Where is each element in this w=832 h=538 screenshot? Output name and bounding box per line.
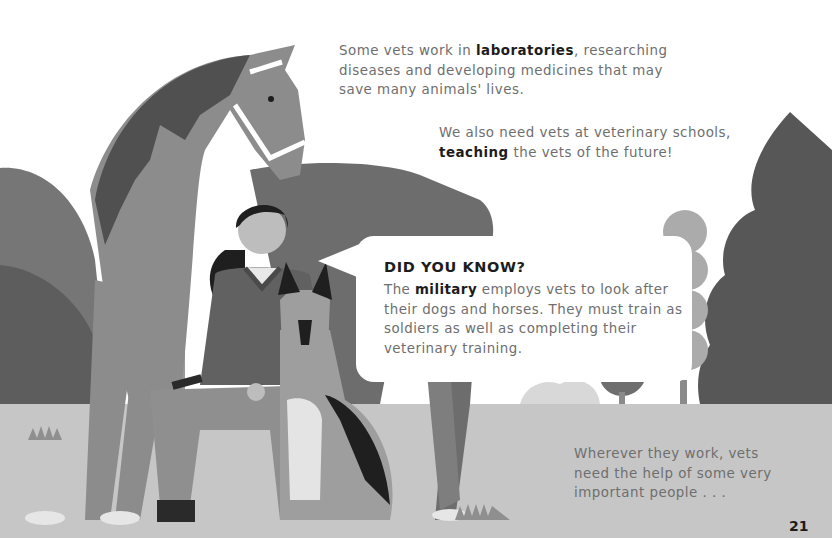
laboratories-text-before: Some vets work in	[339, 43, 476, 58]
did-you-know-title: DID YOU KNOW?	[384, 259, 526, 275]
wherever-line-1: Wherever they work, vets	[574, 446, 759, 461]
dog-chest	[287, 398, 322, 500]
schools-text-after: the vets of the future!	[509, 145, 673, 160]
laboratories-bold: laboratories	[476, 43, 574, 58]
page-number: 21	[789, 518, 808, 534]
did-you-know-bold: military	[415, 282, 477, 297]
book-page: Some vets work in laboratories, research…	[0, 0, 832, 538]
horse-eye	[268, 96, 274, 102]
wherever-line-2: need the help of some very	[574, 466, 772, 481]
bush-back	[520, 380, 600, 404]
wherever-paragraph: Wherever they work, vets need the help o…	[574, 444, 814, 503]
wherever-line-3: important people . . .	[574, 485, 726, 500]
did-you-know-body: The military employs vets to look after …	[384, 280, 684, 358]
laboratories-paragraph: Some vets work in laboratories, research…	[339, 41, 679, 100]
did-you-know-text-before: The	[384, 282, 415, 297]
schools-paragraph: We also need vets at veterinary schools,…	[439, 123, 769, 162]
schools-bold: teaching	[439, 145, 509, 160]
vet-boot	[157, 500, 195, 522]
schools-line-1: We also need vets at veterinary schools,	[439, 125, 731, 140]
